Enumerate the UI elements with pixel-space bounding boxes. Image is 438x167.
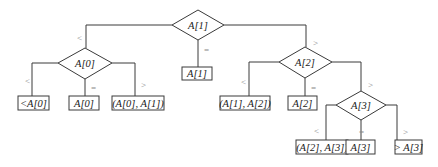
leaf-label: (A[1], A[2])	[219, 98, 271, 110]
leaf-label: (A[2], A[3])	[296, 142, 348, 154]
edge-label-a3-lt: <	[314, 126, 319, 136]
edge-a1-a2	[224, 25, 306, 47]
leaf-label: <A[0]	[20, 98, 47, 109]
edge-label-a2-gt: >	[368, 80, 373, 90]
node-label: A[0]	[74, 58, 95, 69]
edge-a2-gt	[332, 62, 361, 91]
leaf-node-eq-a1: A[1]	[182, 67, 212, 80]
leaf-node-eq-a2: A[2]	[288, 96, 317, 110]
edge-label-a3-eq: =	[359, 127, 364, 137]
edge-label-a3-gt: >	[403, 127, 408, 137]
edge-a1-a0	[86, 25, 172, 48]
edge-label-a2-eq: =	[311, 83, 316, 93]
decision-tree-diagram: < = > < = > < = > < = > A[1] A[0] A[2] A…	[0, 0, 438, 167]
edge-a3-gt	[386, 105, 397, 140]
decision-node-a1: A[1]	[172, 10, 224, 40]
leaf-label: A[1]	[186, 68, 207, 79]
leaf-node-lt-a0: <A[0]	[18, 96, 49, 110]
leaf-node-between-a1-a2: (A[1], A[2])	[219, 96, 271, 110]
node-label: A[3]	[350, 100, 371, 111]
edge-label-a0-eq: =	[91, 83, 96, 93]
edge-label-a2-lt: <	[241, 77, 246, 87]
leaf-label: A[0]	[73, 98, 94, 109]
edge-a3-lt	[326, 105, 336, 140]
edge-label-a0-lt: <	[25, 76, 30, 86]
edge-a0-lt	[32, 63, 58, 96]
edge-label-a1-gt: >	[313, 38, 318, 48]
leaf-node-between-a2-a3: (A[2], A[3])	[296, 140, 348, 154]
leaf-node-eq-a0: A[0]	[69, 96, 99, 110]
node-label: A[1]	[187, 20, 208, 31]
decision-node-a0: A[0]	[58, 48, 112, 79]
edge-label-a1-eq: =	[204, 45, 209, 55]
edge-a0-gt	[112, 63, 135, 96]
edge-label-a0-gt: >	[141, 80, 146, 90]
leaf-label: A[2]	[292, 98, 313, 109]
node-label: A[2]	[294, 57, 315, 68]
decision-node-a3: A[3]	[336, 91, 386, 120]
leaf-label: A[3]	[350, 142, 371, 153]
leaf-label: > A[3]	[394, 142, 423, 153]
leaf-node-gt-a3: > A[3]	[394, 140, 423, 154]
leaf-label: (A[0], A[1])	[112, 98, 164, 110]
decision-node-a2: A[2]	[279, 47, 332, 78]
edge-a2-lt	[249, 62, 279, 96]
leaf-node-eq-a3: A[3]	[346, 140, 375, 154]
leaf-node-between-a0-a1: (A[0], A[1])	[112, 96, 164, 110]
edge-label-a1-lt: <	[77, 33, 82, 43]
